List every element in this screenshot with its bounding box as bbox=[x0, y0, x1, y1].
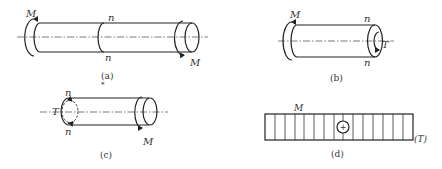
label-section-top: n bbox=[364, 13, 370, 24]
hidden-section-outline bbox=[62, 101, 78, 123]
label-moment-right: M bbox=[189, 57, 201, 68]
label-section-bottom: n bbox=[105, 52, 111, 63]
moment-arrow-right bbox=[174, 21, 184, 55]
label-section-bottom: n bbox=[364, 57, 370, 68]
caption-a: (a) bbox=[101, 71, 113, 81]
label-section-bottom: n bbox=[65, 126, 71, 137]
figure-a: M M n n (a) bbox=[17, 8, 208, 81]
section-n-n bbox=[98, 23, 104, 52]
label-torque-axis: (T) bbox=[414, 134, 428, 144]
stray-mark: * bbox=[101, 81, 105, 89]
figure-c: T M n n (c) bbox=[40, 87, 168, 160]
shaft-right-end bbox=[185, 23, 199, 52]
label-moment-left: M bbox=[25, 8, 37, 19]
moment-arrow-left bbox=[25, 19, 34, 56]
caption-d: (d) bbox=[331, 149, 344, 159]
figure-b: M T n n (b) bbox=[278, 9, 394, 83]
label-torque: T bbox=[52, 106, 60, 117]
label-section-top: n bbox=[65, 87, 71, 98]
shaft-left-end bbox=[34, 23, 40, 52]
caption-b: (b) bbox=[330, 73, 343, 83]
label-moment: M bbox=[293, 103, 304, 113]
moment-arrow-right bbox=[135, 97, 142, 128]
label-torque: T bbox=[382, 39, 390, 50]
label-moment-right: M bbox=[142, 136, 154, 147]
figure-d: + M (T) (d) bbox=[265, 103, 428, 159]
shaft-right-end bbox=[143, 98, 157, 125]
positive-sign: + bbox=[340, 123, 347, 132]
label-section-top: n bbox=[108, 12, 114, 23]
label-moment-left: M bbox=[289, 9, 301, 20]
caption-c: (c) bbox=[100, 150, 112, 160]
